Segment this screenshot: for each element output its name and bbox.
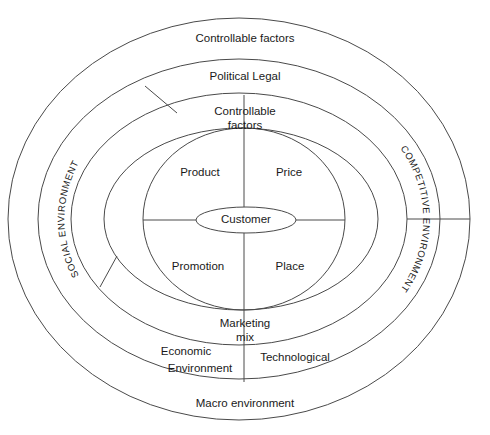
- label-place: Place: [276, 260, 305, 272]
- label-inner-controllable-factors-line1: Controllable: [214, 105, 275, 117]
- label-marketing-mix-line1: Marketing: [220, 317, 271, 329]
- label-technological: Technological: [260, 351, 330, 363]
- marketing-environment-diagram: Controllable factors Macro environment P…: [0, 0, 490, 435]
- label-social-environment: SOCIAL ENVIRONMENT: [55, 158, 80, 280]
- tick-upper-left-diagonal: [145, 86, 177, 113]
- label-price: Price: [276, 166, 302, 178]
- label-customer: Customer: [221, 213, 271, 225]
- label-outer-bottom-macro-environment: Macro environment: [196, 397, 295, 409]
- label-political-legal: Political Legal: [210, 70, 281, 82]
- label-inner-controllable-factors-line2: factors: [228, 119, 263, 131]
- label-promotion: Promotion: [172, 260, 224, 272]
- label-economic: Economic: [161, 345, 212, 357]
- label-social-environment-text: SOCIAL ENVIRONMENT: [55, 158, 80, 280]
- diagram-canvas: Controllable factors Macro environment P…: [0, 0, 490, 435]
- label-marketing-mix-line2: mix: [236, 331, 254, 343]
- label-economic-environment: Environment: [168, 362, 233, 374]
- tick-lower-left-diagonal: [100, 256, 117, 287]
- label-product: Product: [180, 166, 220, 178]
- label-outer-top-controllable-factors: Controllable factors: [195, 32, 294, 44]
